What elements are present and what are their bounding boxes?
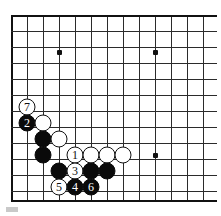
star-point [57, 50, 62, 55]
stone-white-move-7[interactable]: 7 [19, 99, 36, 116]
grid-line-horizontal [11, 111, 217, 112]
star-point [153, 153, 158, 158]
stone-black[interactable] [83, 163, 100, 180]
stone-white[interactable] [35, 115, 52, 132]
stone-white[interactable] [115, 147, 132, 164]
grid-line-horizontal [11, 63, 217, 64]
board-edge-top [11, 15, 217, 17]
stone-black[interactable] [99, 163, 116, 180]
stone-move-number: 3 [72, 165, 78, 177]
stone-white-move-3[interactable]: 3 [67, 163, 84, 180]
grid-line-vertical [123, 15, 124, 200]
stone-black[interactable] [51, 163, 68, 180]
stone-move-number: 1 [72, 149, 78, 161]
grid-line-horizontal [11, 191, 217, 192]
grid-line-horizontal [11, 79, 217, 80]
stone-black[interactable] [35, 131, 52, 148]
stone-white[interactable] [99, 147, 116, 164]
stone-black-move-2[interactable]: 2 [19, 115, 36, 132]
grid-line-horizontal [11, 95, 217, 96]
stone-move-number: 7 [24, 101, 30, 113]
grid-line-vertical [187, 15, 188, 200]
stone-move-number: 4 [72, 181, 78, 193]
grid-line-horizontal [11, 47, 217, 48]
grid-line-vertical [155, 15, 156, 200]
board-edge-bottom [11, 200, 217, 202]
stone-white-move-5[interactable]: 5 [51, 179, 68, 196]
star-point [153, 50, 158, 55]
stone-black-move-4[interactable]: 4 [67, 179, 84, 196]
grid-line-vertical [171, 15, 172, 200]
grid-line-vertical [203, 15, 204, 200]
go-diagram-screenshot: 7213546 [0, 0, 221, 216]
stone-move-number: 2 [24, 117, 30, 129]
stone-move-number: 6 [88, 181, 94, 193]
stone-white[interactable] [51, 131, 68, 148]
go-board[interactable]: 7213546 [0, 0, 221, 205]
grid-line-vertical [139, 15, 140, 200]
stone-black-move-6[interactable]: 6 [83, 179, 100, 196]
board-edge-left [11, 15, 13, 200]
stone-white[interactable] [83, 147, 100, 164]
stone-move-number: 5 [56, 181, 62, 193]
stone-white-move-1[interactable]: 1 [67, 147, 84, 164]
grid-line-vertical [43, 15, 44, 200]
caption-mark [6, 207, 18, 212]
stone-black[interactable] [35, 147, 52, 164]
grid-line-horizontal [11, 31, 217, 32]
